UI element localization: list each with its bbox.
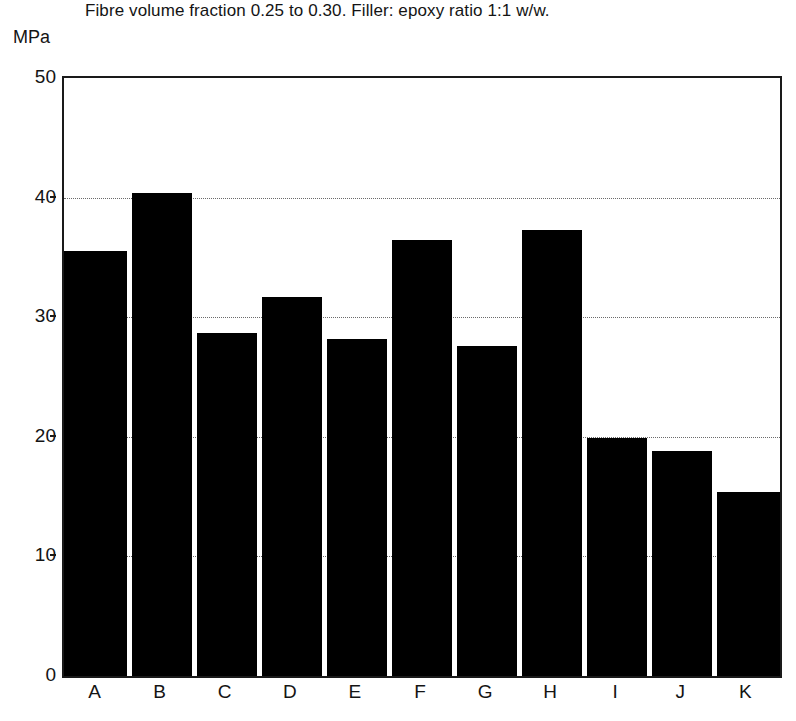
y-tick-label-50: 50 — [10, 67, 56, 86]
bar-D — [262, 297, 322, 676]
bar-A — [64, 251, 127, 676]
bar-C — [197, 333, 257, 676]
x-tick-label-A: A — [62, 681, 127, 703]
x-tick-label-I: I — [583, 681, 648, 703]
y-tick-mark-10 — [50, 554, 56, 556]
chart-title: Fibre volume fraction 0.25 to 0.30. Fill… — [85, 1, 550, 21]
y-tick-label-0: 0 — [10, 665, 56, 684]
x-tick-label-H: H — [518, 681, 583, 703]
x-axis: ABCDEFGHIJK — [62, 681, 778, 711]
bar-E — [327, 339, 387, 676]
bar-G — [457, 346, 517, 676]
x-tick-label-K: K — [713, 681, 778, 703]
x-tick-label-G: G — [453, 681, 518, 703]
x-tick-label-J: J — [648, 681, 713, 703]
y-axis: 01020304050 — [0, 76, 56, 674]
y-tick-mark-30 — [50, 315, 56, 317]
plot-area — [62, 76, 782, 678]
bar-B — [132, 193, 192, 676]
y-tick-mark-40 — [50, 196, 56, 198]
bar-I — [587, 438, 647, 676]
bar-chart: Fibre volume fraction 0.25 to 0.30. Fill… — [0, 0, 796, 721]
bars — [64, 78, 780, 676]
bar-H — [522, 230, 582, 676]
x-tick-label-F: F — [388, 681, 453, 703]
x-tick-label-E: E — [322, 681, 387, 703]
y-tick-mark-20 — [50, 435, 56, 437]
x-tick-label-D: D — [257, 681, 322, 703]
bar-K — [717, 492, 780, 676]
x-tick-label-B: B — [127, 681, 192, 703]
x-tick-label-C: C — [192, 681, 257, 703]
bar-F — [392, 240, 452, 677]
bar-J — [652, 451, 712, 676]
y-axis-unit-label: MPa — [13, 26, 50, 48]
